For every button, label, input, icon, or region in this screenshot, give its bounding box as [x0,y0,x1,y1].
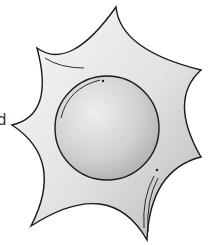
sun-star-illustration [0,0,214,245]
disc-glint-dot [102,80,104,82]
star-glint-dot [156,169,158,171]
sun-disc [55,76,159,180]
